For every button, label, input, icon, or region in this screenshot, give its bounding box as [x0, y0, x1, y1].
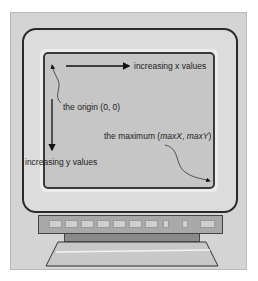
origin-label: the origin (0, 0) — [63, 102, 120, 112]
maximum-label: the maximum (maxX, maxY) — [104, 131, 211, 141]
x-axis-label: increasing x values — [134, 61, 206, 71]
origin-pointer — [52, 65, 61, 103]
maximum-suffix: ) — [208, 131, 211, 141]
maximum-pointer — [165, 145, 210, 181]
maximum-prefix: the maximum ( — [104, 131, 160, 141]
maximum-x: maxX — [160, 131, 182, 141]
maximum-y: maxY — [187, 131, 209, 141]
y-axis-label: increasing y values — [25, 157, 97, 167]
